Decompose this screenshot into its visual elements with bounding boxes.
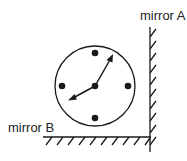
long-hand: [95, 58, 111, 86]
mirror-b: [43, 137, 151, 145]
clock: [55, 46, 135, 126]
mirror-b-label: mirror B: [8, 120, 54, 135]
diagram: [0, 0, 187, 161]
mirror-a: [150, 27, 156, 152]
short-hand: [73, 86, 95, 98]
mirror-a-label: mirror A: [140, 8, 186, 23]
